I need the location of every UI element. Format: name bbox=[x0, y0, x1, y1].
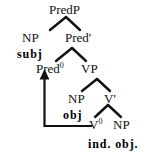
branch-v-bar-to-np-indobj bbox=[108, 105, 121, 117]
gloss-obj: obj bbox=[63, 109, 82, 121]
node-pred0: Pred0 bbox=[36, 62, 64, 75]
node-v0: V0 bbox=[89, 118, 102, 131]
syntax-tree-diagram: PredP NP Pred' subj Pred0 VP NP V' obj V… bbox=[0, 0, 158, 156]
branch-predp-to-pred-bar bbox=[66, 17, 80, 30]
node-np-obj: NP bbox=[68, 92, 85, 105]
node-pred-bar: Pred' bbox=[65, 31, 91, 44]
branch-v-bar-to-v0 bbox=[95, 105, 108, 117]
branch-predp-to-np-subj bbox=[50, 17, 66, 30]
node-pred0-base: Pred bbox=[36, 61, 60, 76]
gloss-ind-obj: ind. obj. bbox=[88, 138, 138, 150]
node-v-bar: V' bbox=[104, 92, 116, 105]
node-v0-superscript: 0 bbox=[98, 117, 102, 126]
node-pred0-superscript: 0 bbox=[60, 61, 64, 70]
node-predp: PredP bbox=[49, 3, 80, 16]
branch-vp-to-v-bar bbox=[97, 79, 110, 91]
node-np-subj: NP bbox=[22, 31, 39, 44]
branch-pred-bar-to-vp bbox=[72, 48, 86, 61]
branch-pred-bar-to-pred0 bbox=[56, 48, 72, 61]
gloss-subj: subj bbox=[17, 48, 43, 60]
tree-branch-lines bbox=[0, 0, 158, 156]
node-np-indobj: NP bbox=[113, 118, 130, 131]
branch-vp-to-np-obj bbox=[82, 79, 97, 91]
node-vp: VP bbox=[81, 62, 98, 75]
node-v0-base: V bbox=[89, 117, 98, 132]
